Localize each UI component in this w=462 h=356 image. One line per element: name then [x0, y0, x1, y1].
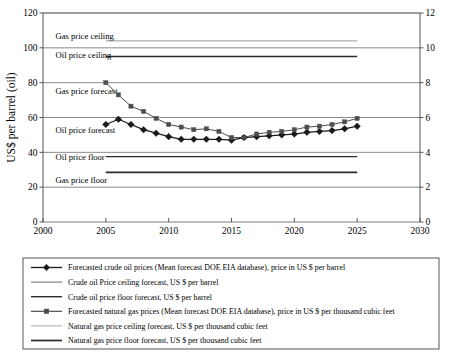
series-marker-square [267, 130, 271, 134]
series-marker-diamond [178, 136, 185, 143]
x-tick-label: 2030 [411, 226, 430, 236]
legend-label: Crude oil Price ceiling forecast, US $ p… [68, 278, 219, 287]
series-marker-square [255, 132, 259, 136]
series-marker-square [330, 122, 334, 126]
legend-label: Forecasted crude oil prices (Mean foreca… [68, 263, 346, 272]
legend-item[interactable]: Forecasted crude oil prices (Mean foreca… [31, 263, 346, 272]
y-tick-label-right: 4 [426, 148, 431, 158]
data-series [103, 81, 361, 144]
series-marker-diamond [115, 116, 122, 123]
series-marker-square [129, 104, 133, 108]
legend-item[interactable]: Crude oil Price ceiling forecast, US $ p… [31, 278, 219, 287]
y-tick-label-right: 2 [426, 182, 431, 192]
legend-label: Forecasted natural gas prices (Mean fore… [68, 307, 395, 316]
series-marker-diamond [140, 126, 147, 133]
x-tick-label: 2010 [159, 226, 178, 236]
y-tick-label-left: 40 [28, 148, 38, 158]
series-marker-square [292, 128, 296, 132]
x-tick-label: 2020 [285, 226, 304, 236]
y-tick-label-right: 8 [426, 78, 431, 88]
y-tick-label-right: 12 [426, 8, 436, 18]
series-marker-square [229, 135, 233, 139]
series-marker-diamond [153, 130, 160, 137]
y-axis-left: 020406080100120 [23, 8, 43, 227]
series-marker-square [192, 128, 196, 132]
series-marker-square [141, 109, 145, 113]
series-marker-diamond [203, 136, 210, 143]
y-tick-label-left: 120 [23, 8, 38, 18]
y-tick-label-left: 60 [28, 113, 38, 123]
plot-annotation-label: Gas price forecast [56, 86, 119, 96]
y-tick-label-right: 6 [426, 113, 431, 123]
plot-annotation-label: Oil price ceiling [56, 50, 113, 60]
x-tick-label: 2005 [96, 226, 115, 236]
series-marker-square [104, 81, 108, 85]
y-tick-label-right: 10 [426, 43, 436, 53]
legend-item[interactable]: Forecasted natural gas prices (Mean fore… [31, 307, 395, 316]
legend-item[interactable]: Natural gas price ceiling forecast, US $… [31, 322, 268, 331]
series-marker-square [317, 124, 321, 128]
series-marker-diamond [128, 121, 135, 128]
y-tick-label-left: 100 [23, 43, 38, 53]
y-tick-label-left: 20 [28, 182, 38, 192]
series-marker-square [167, 122, 171, 126]
plot-annotation-label: Oil price floor [56, 152, 105, 162]
series-marker-square [154, 116, 158, 120]
legend-item[interactable]: Natural gas price floor forecast, US $ p… [31, 336, 262, 345]
x-tick-label: 2015 [222, 226, 241, 236]
series-marker-square [280, 129, 284, 133]
series-marker-diamond [354, 123, 361, 130]
oil-gas-price-forecast-chart: 0204060801001200246810122000200520102015… [0, 0, 462, 356]
series-marker-square [305, 125, 309, 129]
x-axis: 2000200520102015202020252030 [34, 218, 430, 236]
y-axis-title: US$ per barrel (oil) [5, 72, 18, 163]
legend: Forecasted crude oil prices (Mean foreca… [23, 258, 439, 349]
series-marker-diamond [304, 129, 311, 136]
series-marker-square [204, 127, 208, 131]
series-marker-diamond [216, 136, 223, 143]
legend-marker-diamond [43, 264, 50, 271]
series-marker-diamond [165, 133, 172, 140]
series-marker-square [217, 129, 221, 133]
series-marker-diamond [329, 127, 336, 134]
legend-label: Natural gas price floor forecast, US $ p… [68, 336, 262, 345]
series-marker-square [355, 116, 359, 120]
series-marker-diamond [316, 128, 323, 135]
x-tick-label: 2025 [348, 226, 367, 236]
legend-label: Natural gas price ceiling forecast, US $… [68, 322, 268, 331]
series-marker-square [343, 120, 347, 124]
gridlines [43, 13, 420, 222]
series-marker-square [242, 135, 246, 139]
series-marker-square [179, 125, 183, 129]
plot-annotation-label: Gas price ceiling [56, 31, 115, 41]
reference-lines: Gas price ceilingOil price ceilingGas pr… [56, 31, 358, 185]
series-marker-square [116, 93, 120, 97]
chart-figure: 0204060801001200246810122000200520102015… [0, 0, 462, 356]
y-tick-label-left: 80 [28, 78, 38, 88]
legend-marker-square [44, 309, 49, 314]
x-tick-label: 2000 [34, 226, 53, 236]
series-marker-diamond [341, 126, 348, 133]
plot-annotation-label: Gas price floor [56, 175, 108, 185]
series-marker-diamond [191, 136, 198, 143]
legend-item[interactable]: Crude oil price floor forecast, US $ per… [31, 293, 213, 302]
legend-label: Crude oil price floor forecast, US $ per… [68, 293, 213, 302]
y-axis-right: 024681012 [420, 8, 435, 227]
